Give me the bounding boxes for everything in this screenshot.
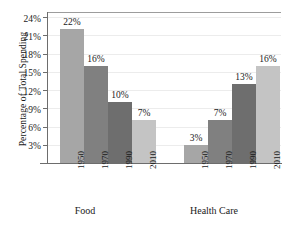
bar-value-label: 16% xyxy=(259,54,276,64)
y-axis-tick-label: 3% xyxy=(28,141,41,151)
bar-value-label: 10% xyxy=(111,90,128,100)
y-axis-tick-label: 18% xyxy=(24,50,41,60)
x-axis-tick-label: 1950 xyxy=(200,135,210,169)
bar-value-label: 7% xyxy=(214,108,227,118)
bar-chart: Percentage of Total Spending 3%6%9%12%15… xyxy=(0,0,285,225)
group-label-health: Health Care xyxy=(168,205,260,216)
x-axis-tick-label: 1950 xyxy=(76,135,86,169)
y-axis-line xyxy=(47,12,48,164)
bar-value-label: 22% xyxy=(63,17,80,27)
x-axis-tick-label: 1970 xyxy=(100,135,110,169)
x-axis-tick-label: 1990 xyxy=(124,135,134,169)
y-axis-tick-label: 12% xyxy=(24,87,41,97)
x-axis-tick-label: 2010 xyxy=(272,135,282,169)
group-label-food: Food xyxy=(45,205,125,216)
y-axis-tick-label: 15% xyxy=(24,68,41,78)
y-axis-tick-label: 6% xyxy=(28,123,41,133)
y-axis-tick-label: 9% xyxy=(28,105,41,115)
x-axis-tick-label: 1990 xyxy=(248,135,258,169)
bar-value-label: 7% xyxy=(138,108,151,118)
x-axis-tick-label: 2010 xyxy=(148,135,158,169)
bar-value-label: 16% xyxy=(87,54,104,64)
bar-value-label: 13% xyxy=(235,72,252,82)
y-axis-tick-label: 24% xyxy=(24,14,41,24)
x-axis-tick-label: 1970 xyxy=(224,135,234,169)
y-axis-tick-label: 21% xyxy=(24,32,41,42)
